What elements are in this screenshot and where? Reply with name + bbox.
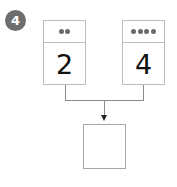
dot-icon (59, 29, 64, 34)
number-card-2: 4 (122, 20, 165, 85)
connector-line-left (65, 85, 66, 100)
dot-icon (151, 29, 156, 34)
question-number-badge: 4 (5, 10, 26, 31)
answer-box[interactable] (83, 124, 126, 169)
connector-line-down (104, 100, 105, 116)
dot-icon (131, 29, 136, 34)
dot-icon (138, 29, 143, 34)
dot-icon (65, 29, 70, 34)
connector-line-right (143, 85, 144, 100)
arrow-down-icon (101, 115, 107, 121)
dot-icon (144, 29, 149, 34)
dot-row (123, 21, 164, 43)
card-value: 2 (44, 43, 85, 86)
dot-row (44, 21, 85, 43)
card-value: 4 (123, 43, 164, 86)
number-card-1: 2 (43, 20, 86, 85)
